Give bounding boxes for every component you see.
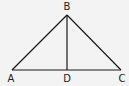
- point-label-d: D: [63, 74, 71, 84]
- triangle-diagram: B A D C: [0, 0, 129, 86]
- segment-ab: [12, 15, 67, 70]
- vertex-label-a: A: [8, 74, 15, 84]
- vertex-label-b: B: [64, 2, 71, 12]
- vertex-label-c: C: [119, 74, 126, 84]
- segment-bc: [67, 15, 121, 70]
